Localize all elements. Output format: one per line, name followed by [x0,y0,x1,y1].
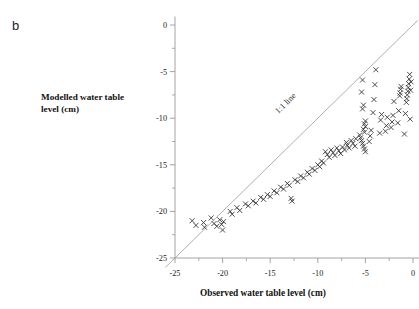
data-point-marker [214,224,219,229]
data-point-marker [274,190,279,195]
y-axis-tick-label: -25 [156,254,167,263]
x-axis-tick-label: -5 [362,269,369,278]
data-point-marker [360,77,365,82]
data-point-marker [321,160,326,165]
data-point-marker [193,223,198,228]
data-point-marker [408,117,413,122]
data-point-marker [391,113,396,118]
data-point-marker [389,125,394,130]
data-point-marker [396,108,401,113]
data-point-marker [352,144,357,149]
y-axis-tick-label: 0 [163,21,167,30]
data-point-marker [228,209,233,214]
data-point-marker [407,72,412,77]
data-point-marker [312,168,317,173]
data-point-marker [403,111,408,116]
data-point-marker [327,155,332,160]
data-point-marker [395,120,400,125]
data-point-marker [261,197,266,202]
data-point-marker [409,79,414,84]
data-point-marker [377,131,382,136]
data-point-marker [325,152,330,157]
data-point-marker [367,139,372,144]
data-point-marker [301,175,306,180]
scatter-plot: 0-5-10-15-20-25-25-20-15-10-501:1 line [0,0,419,309]
one-to-one-line-label: 1:1 line [273,91,297,115]
data-point-marker [253,201,258,206]
data-point-marker [251,199,256,204]
data-point-marker [349,138,354,143]
data-point-group [190,67,414,232]
data-point-marker [287,183,292,188]
data-point-marker [298,173,303,178]
data-point-marker [230,212,235,217]
data-point-marker [371,110,376,115]
data-point-marker [292,177,297,182]
data-point-marker [369,128,374,133]
data-point-marker [190,218,195,223]
data-point-marker [342,147,347,152]
data-point-marker [323,149,328,154]
data-point-marker [390,119,395,124]
data-point-marker [237,208,242,213]
data-point-marker [402,132,407,137]
data-point-marker [307,172,312,177]
data-point-marker [201,220,206,225]
chart-canvas: 0-5-10-15-20-25-25-20-15-10-501:1 line [0,0,419,309]
x-axis-tick-label: -10 [312,269,323,278]
one-to-one-reference-line [165,20,417,267]
data-point-marker [359,90,364,95]
data-point-marker [329,147,334,152]
data-point-marker [373,67,378,72]
data-point-marker [378,118,383,123]
y-axis-tick-label: -5 [160,68,167,77]
data-point-marker [383,129,388,134]
data-point-marker [272,188,277,193]
data-point-marker [372,82,377,87]
data-point-marker [334,146,339,151]
data-point-marker [281,187,286,192]
x-axis-tick-label: -20 [217,269,228,278]
data-point-marker [209,215,214,220]
data-point-marker [295,179,300,184]
data-point-marker [360,106,365,111]
data-point-marker [278,185,283,190]
data-point-marker [220,228,225,233]
data-point-marker [268,194,273,199]
x-axis-tick-label: 0 [411,269,415,278]
data-point-marker [361,103,366,108]
data-point-marker [243,201,248,206]
x-axis-tick-label: -15 [265,269,276,278]
data-point-marker [351,141,356,146]
data-point-marker [265,192,270,197]
data-point-marker [371,97,376,102]
data-point-marker [407,77,412,82]
data-point-marker [368,133,373,138]
y-axis-tick-label: -10 [156,114,167,123]
data-point-marker [385,115,390,120]
y-axis-tick-label: -20 [156,207,167,216]
data-point-marker [219,222,224,227]
data-point-marker [332,153,337,158]
data-point-marker [310,166,315,171]
y-axis-tick-label: -15 [156,161,167,170]
data-point-marker [331,150,336,155]
data-point-marker [246,203,251,208]
x-axis-tick-label: -25 [170,269,181,278]
data-point-marker [379,112,384,117]
data-point-marker [391,99,396,104]
data-point-marker [347,146,352,151]
data-point-marker [384,123,389,128]
data-point-marker [340,145,345,150]
data-point-marker [258,195,263,200]
